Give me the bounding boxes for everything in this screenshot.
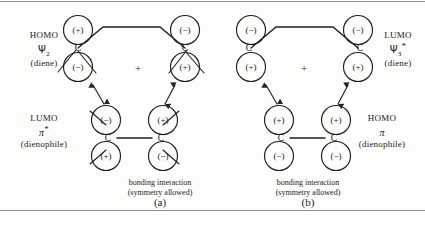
atom-label-b-dienophile-left: C [278,133,284,143]
lobe-sign-a-dienophile-right-top: (+) [157,115,168,125]
panel-b-interaction-arrows [266,85,348,104]
label-a-dienophile-orbital: LUMO [2,113,86,124]
lobe-sign-a-dienophile-left-top: (−) [100,115,111,125]
panel-a-diene-skeleton [78,27,185,48]
atom-label-a-diene-right: C [182,43,188,53]
label-panel-a-diene: HOMO Ψ2 (diene) [6,30,82,69]
label-b-dienophile-species: (dienophile) [340,139,424,150]
lobe-sign-a-dienophile-right-bottom: (−) [157,151,168,161]
panel-letter-a: (a) [96,196,224,208]
label-panel-b-dienophile: HOMO π (dienophile) [340,113,424,149]
panel-b-plus-separator: + [298,62,310,74]
atom-label-b-diene-right: C [357,43,363,53]
label-b-dienophile-orbital: HOMO [340,113,424,124]
label-a-diene-symbol: Ψ2 [6,41,82,59]
lobe-sign-a-diene-right-bottom: (+) [179,62,190,72]
lobe-sign-b-diene-left-top: (−) [245,25,256,35]
panel-letter-b: (b) [244,196,372,208]
lobe-sign-b-dienophile-right-bottom: (−) [330,151,341,161]
panel-a-interaction-arrows [93,85,175,104]
panel-b-diene-skeleton [251,27,358,48]
lobe-sign-b-dienophile-left-top: (+) [273,115,284,125]
label-b-diene-species: (diene) [372,58,424,69]
lobe-sign-b-dienophile-left-bottom: (−) [273,151,284,161]
caption-b-line1: bonding interaction [244,178,372,188]
label-b-diene-symbol: Ψ3* [372,41,424,59]
atom-label-b-dienophile-right: C [331,133,337,143]
lobe-sign-b-diene-right-bottom: (+) [352,62,363,72]
figure-canvas: (+) (−) (−) (+) (−) (+) (+) (−) (−) (+) … [0,0,425,225]
lobe-sign-b-diene-left-bottom: (+) [245,62,256,72]
lobe-sign-a-diene-right-top: (−) [179,25,190,35]
label-a-diene-species: (diene) [6,58,82,69]
caption-a-line1: bonding interaction [96,178,224,188]
panel-a-plus-separator: + [132,62,144,74]
lobe-sign-a-dienophile-left-bottom: (+) [100,151,111,161]
atom-label-a-dienophile-left: C [105,133,111,143]
atom-label-b-diene-left: C [246,43,252,53]
atom-label-a-dienophile-right: C [158,133,164,143]
label-b-dienophile-symbol: π [340,124,424,139]
label-b-diene-orbital: LUMO [372,30,424,41]
label-a-dienophile-species: (dienophile) [2,139,86,150]
label-a-diene-orbital: HOMO [6,30,82,41]
label-a-dienophile-symbol: π* [2,124,86,139]
lobe-sign-b-diene-right-top: (−) [352,25,363,35]
label-panel-b-diene: LUMO Ψ3* (diene) [372,30,424,69]
label-panel-a-dienophile: LUMO π* (dienophile) [2,113,86,149]
